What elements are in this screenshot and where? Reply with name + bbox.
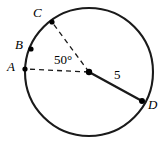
point-label-b: B <box>15 38 23 51</box>
geometry-canvas <box>0 0 166 144</box>
point-label-a: A <box>7 60 15 73</box>
geometry-figure: C B A D 50° 5 <box>0 0 166 144</box>
point-label-c: C <box>33 6 42 19</box>
point-dot-center <box>86 69 92 75</box>
point-dot-d <box>139 98 145 104</box>
point-label-d: D <box>148 98 157 111</box>
point-dot-c <box>49 19 54 24</box>
dashed-radius-to-a <box>25 69 89 72</box>
central-angle-label: 50° <box>54 53 72 66</box>
point-dot-b <box>28 46 33 51</box>
radius-length-label: 5 <box>114 68 121 81</box>
point-dot-a <box>22 66 27 71</box>
